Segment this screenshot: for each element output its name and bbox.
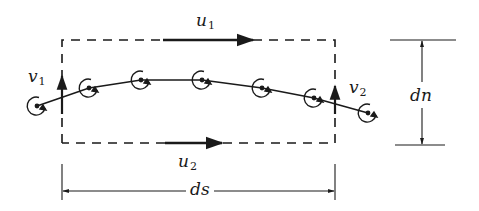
u1-label-base: u [196, 10, 207, 30]
v2-label-base: v [349, 77, 359, 97]
u2-label-base: u [178, 151, 189, 171]
vortex-icon [131, 71, 150, 89]
control-volume-rectangle [62, 40, 335, 143]
u1-label-sub: 1 [208, 19, 215, 32]
v2-label: v2 [349, 79, 367, 98]
vortex-sheet-diagram [0, 0, 479, 211]
vortex-icon [304, 89, 323, 107]
u2-label: u2 [178, 153, 197, 172]
vortex-icon [27, 97, 46, 115]
vortex-icon [358, 104, 377, 122]
u1-label: u1 [196, 12, 215, 31]
v1-label-base: v [28, 66, 38, 86]
u2-label-sub: 2 [190, 160, 197, 173]
v2-label-sub: 2 [360, 86, 367, 99]
dn-label: dn [410, 87, 432, 104]
vortex-icon [79, 79, 98, 97]
vortex-icon [252, 79, 271, 97]
ds-label: ds [190, 181, 210, 198]
v1-label-sub: 1 [39, 75, 46, 88]
v1-label: v1 [28, 68, 46, 87]
vortex-elements [27, 71, 377, 122]
